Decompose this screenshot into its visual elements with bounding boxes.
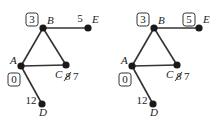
distance-value-B: 3 — [140, 13, 146, 25]
node-label-B: B — [47, 14, 54, 26]
graph-right: A0B3C87D12E5 — [119, 13, 210, 118]
distance-value-A: 0 — [122, 73, 128, 85]
node-label-C: C — [166, 68, 174, 80]
node-A — [17, 62, 24, 69]
node-C — [173, 61, 180, 68]
node-C — [62, 61, 69, 68]
graph-diagram-canvas: A0B3C87D12E5A0B3C87D12E5 — [0, 0, 219, 118]
graph-left: A0B3C87D12E5 — [8, 12, 99, 118]
edge-A-B — [132, 28, 154, 66]
node-label-C: C — [55, 68, 63, 80]
node-E — [195, 24, 202, 31]
node-label-E: E — [202, 13, 210, 25]
node-label-D: D — [149, 106, 158, 118]
node-label-A: A — [9, 54, 17, 66]
distance-value-E: 5 — [186, 13, 192, 25]
edge-B-C — [43, 28, 66, 65]
distance-value-C: 7 — [184, 70, 190, 82]
node-label-B: B — [158, 14, 165, 26]
distance-value-C: 7 — [73, 70, 79, 82]
distance-value-B: 3 — [29, 13, 35, 25]
node-B — [150, 24, 157, 31]
edge-A-B — [21, 28, 43, 66]
node-label-A: A — [120, 54, 128, 66]
node-A — [128, 62, 135, 69]
edge-A-C — [21, 65, 66, 66]
edge-B-C — [154, 28, 177, 65]
distance-value-D: 12 — [26, 94, 37, 106]
node-label-D: D — [38, 106, 47, 118]
distance-value-D: 12 — [137, 94, 148, 106]
node-label-E: E — [91, 13, 99, 25]
node-B — [39, 24, 46, 31]
distance-value-E: 5 — [77, 12, 83, 24]
edge-A-C — [132, 65, 177, 66]
node-E — [84, 24, 91, 31]
distance-value-A: 0 — [11, 73, 17, 85]
